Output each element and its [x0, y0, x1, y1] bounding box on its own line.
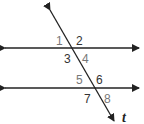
angle-label-7: 7	[84, 92, 91, 106]
angle-label-3: 3	[64, 52, 71, 66]
angle-label-8: 8	[104, 92, 111, 106]
angle-label-2: 2	[76, 34, 83, 48]
angle-label-1: 1	[56, 34, 63, 48]
angle-label-4: 4	[82, 52, 89, 66]
angle-label-6: 6	[96, 73, 103, 87]
angle-label-5: 5	[76, 73, 83, 87]
transversal-label: t	[122, 110, 127, 124]
diagram: 1 2 3 4 5 6 7 8 t	[0, 0, 144, 124]
